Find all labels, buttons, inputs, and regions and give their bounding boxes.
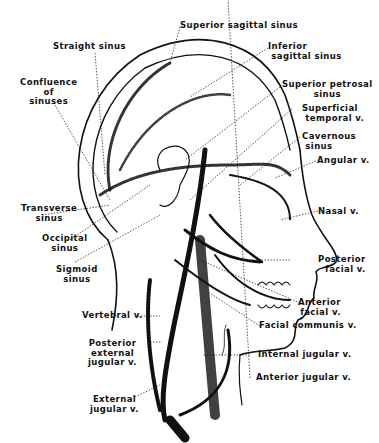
label-superficial-temporal-v: Superficial temporal v. [302,104,364,123]
label-straight-sinus: Straight sinus [53,42,126,52]
label-posterior-external-jugular-v: Posterior external jugular v. [88,339,137,368]
label-cavernous-sinus: Cavernous sinus [302,132,356,151]
label-posterior-facial-v: Posterior facial v. [318,255,366,274]
label-transverse-sinus: Transverse sinus [21,204,77,223]
label-confluence-of-sinuses: Confluence of sinuses [20,78,77,107]
label-occipital-sinus: Occipital sinus [42,234,88,253]
label-anterior-jugular-v: Anterior jugular v. [256,373,351,383]
label-anterior-facial-v: Anterior facial v. [298,298,341,317]
label-sigmoid-sinus: Sigmoid sinus [56,265,98,284]
label-internal-jugular-v: Internal jugular v. [258,350,351,360]
vein-diagram: Superior sagittal sinus Straight sinus I… [0,0,379,443]
label-facial-communis-v: Facial communis v. [259,321,357,331]
label-inferior-sagittal-sinus: Inferior sagittal sinus [268,42,342,61]
label-vertebral-v: Vertebral v. [82,311,143,321]
label-external-jugular-v: External jugular v. [90,395,139,414]
label-angular-v: Angular v. [317,156,370,166]
label-superior-petrosal-sinus: Superior petrosal sinus [282,80,373,99]
label-nasal-v: Nasal v. [318,207,359,217]
label-superior-sagittal-sinus: Superior sagittal sinus [180,21,298,31]
